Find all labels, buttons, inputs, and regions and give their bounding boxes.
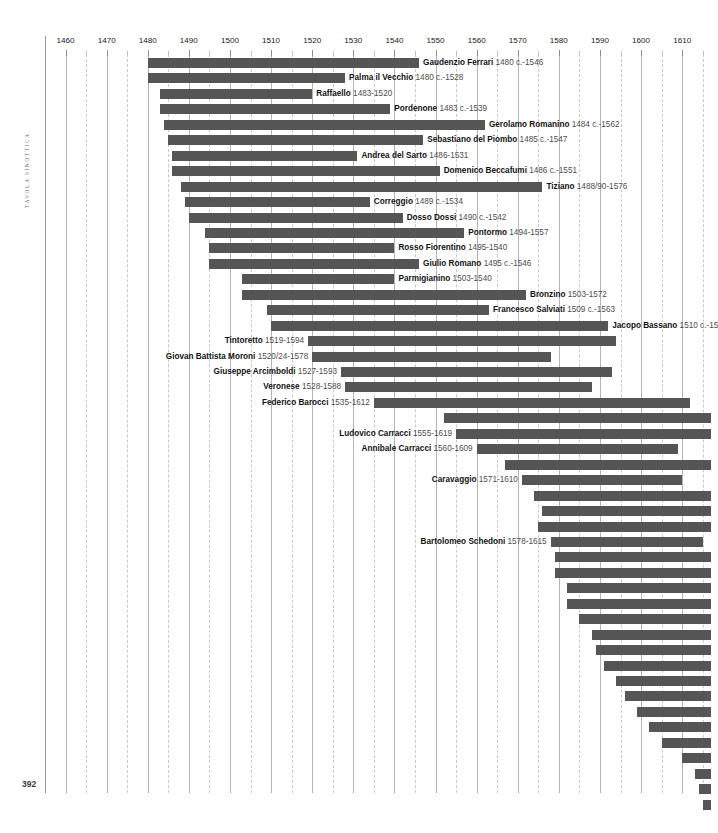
artist-row[interactable] xyxy=(45,457,711,474)
artist-row[interactable]: Gaudenzio Ferrari 1480 c.-1546 xyxy=(45,55,711,72)
lifespan-bar[interactable] xyxy=(181,182,543,192)
lifespan-bar[interactable] xyxy=(242,290,526,300)
lifespan-bar[interactable] xyxy=(456,429,711,439)
lifespan-bar[interactable] xyxy=(682,753,711,763)
lifespan-bar[interactable] xyxy=(555,552,711,562)
artist-row[interactable] xyxy=(45,596,711,613)
lifespan-bar[interactable] xyxy=(695,769,711,779)
artist-row[interactable] xyxy=(45,673,711,690)
lifespan-bar[interactable] xyxy=(164,120,485,130)
artist-row[interactable]: Jacopo Bassano 1510 c.-15 xyxy=(45,318,711,335)
lifespan-bar[interactable] xyxy=(522,475,682,485)
artist-row[interactable] xyxy=(45,750,711,767)
lifespan-bar[interactable] xyxy=(374,398,691,408)
artist-row[interactable]: Raffaello 1483-1520 xyxy=(45,86,711,103)
artist-row[interactable] xyxy=(45,781,711,798)
lifespan-bar[interactable] xyxy=(555,568,711,578)
artist-row[interactable]: Ludovico Carracci 1555-1619 xyxy=(45,426,711,443)
artist-row[interactable]: Palma il Vecchio 1480 c.-1528 xyxy=(45,70,711,87)
artist-row[interactable]: Veronese 1528-1588 xyxy=(45,379,711,396)
artist-row[interactable] xyxy=(45,642,711,659)
artist-row[interactable]: Andrea del Sarto 1486-1531 xyxy=(45,148,711,165)
artist-row[interactable]: Parmigianino 1503-1540 xyxy=(45,271,711,288)
artist-row[interactable]: Tintoretto 1519-1594 xyxy=(45,333,711,350)
artist-row[interactable]: Domenico Beccafumi 1486 c.-1551 xyxy=(45,163,711,180)
artist-row[interactable]: Caravaggio 1571-1610 xyxy=(45,472,711,489)
lifespan-bar[interactable] xyxy=(160,104,390,114)
lifespan-bar[interactable] xyxy=(205,228,464,238)
artist-row[interactable]: Rosso Fiorentino 1495-1540 xyxy=(45,240,711,257)
artist-row[interactable] xyxy=(45,488,711,505)
artist-row[interactable] xyxy=(45,735,711,752)
artist-row[interactable] xyxy=(45,549,711,566)
lifespan-bar[interactable] xyxy=(168,135,423,145)
lifespan-bar[interactable] xyxy=(160,89,312,99)
lifespan-bar[interactable] xyxy=(616,676,711,686)
artist-row[interactable] xyxy=(45,580,711,597)
lifespan-bar[interactable] xyxy=(341,367,612,377)
lifespan-bar[interactable] xyxy=(185,197,370,207)
artist-row[interactable]: Correggio 1489 c.-1534 xyxy=(45,194,711,211)
artist-dates: 1555-1619 xyxy=(413,429,452,438)
lifespan-bar[interactable] xyxy=(308,336,616,346)
lifespan-bar[interactable] xyxy=(505,460,711,470)
artist-row[interactable]: Bronzino 1503-1572 xyxy=(45,287,711,304)
lifespan-bar[interactable] xyxy=(209,259,419,269)
lifespan-bar[interactable] xyxy=(242,274,394,284)
artist-row[interactable]: Giulio Romano 1495 c.-1546 xyxy=(45,256,711,273)
artist-row[interactable] xyxy=(45,519,711,536)
artist-row[interactable]: Dosso Dossi 1490 c.-1542 xyxy=(45,210,711,227)
lifespan-bar[interactable] xyxy=(267,305,489,315)
lifespan-bar[interactable] xyxy=(345,382,592,392)
lifespan-bar[interactable] xyxy=(567,583,711,593)
lifespan-bar[interactable] xyxy=(662,738,711,748)
artist-row[interactable] xyxy=(45,688,711,705)
artist-row[interactable] xyxy=(45,611,711,628)
lifespan-bar[interactable] xyxy=(444,413,711,423)
artist-row[interactable]: Gerolamo Romanino 1484 c.-1562 xyxy=(45,117,711,134)
lifespan-bar[interactable] xyxy=(189,213,403,223)
artist-row[interactable] xyxy=(45,797,711,814)
artist-row[interactable]: Tiziano 1488/90-1576 xyxy=(45,179,711,196)
lifespan-bar[interactable] xyxy=(699,784,711,794)
artist-row[interactable] xyxy=(45,410,711,427)
lifespan-bar[interactable] xyxy=(538,522,711,532)
lifespan-bar[interactable] xyxy=(596,645,711,655)
lifespan-bar[interactable] xyxy=(534,491,711,501)
artist-row[interactable]: Giuseppe Arcimboldi 1527-1593 xyxy=(45,364,711,381)
artist-row[interactable]: Annibale Carracci 1560-1609 xyxy=(45,441,711,458)
lifespan-bar[interactable] xyxy=(625,691,711,701)
artist-row[interactable]: Giovan Battista Moroni 1520/24-1578 xyxy=(45,349,711,366)
lifespan-bar[interactable] xyxy=(312,352,550,362)
lifespan-bar[interactable] xyxy=(172,166,439,176)
artist-row[interactable] xyxy=(45,766,711,783)
artist-row[interactable] xyxy=(45,627,711,644)
year-label: 1560 xyxy=(468,36,486,45)
lifespan-bar[interactable] xyxy=(637,707,711,717)
artist-row[interactable]: Pordenone 1483 c.-1539 xyxy=(45,101,711,118)
artist-row[interactable]: Bartolomeo Schedoni 1578-1615 xyxy=(45,534,711,551)
lifespan-bar[interactable] xyxy=(649,722,711,732)
artist-row[interactable]: Pontormo 1494-1557 xyxy=(45,225,711,242)
lifespan-bar[interactable] xyxy=(148,73,345,83)
lifespan-bar[interactable] xyxy=(271,321,608,331)
artist-row[interactable]: Francesco Salviati 1509 c.-1563 xyxy=(45,302,711,319)
artist-row[interactable]: Sebastiano del Piombo 1485 c.-1547 xyxy=(45,132,711,149)
lifespan-bar[interactable] xyxy=(209,243,394,253)
lifespan-bar[interactable] xyxy=(579,614,711,624)
lifespan-bar[interactable] xyxy=(542,506,711,516)
lifespan-bar[interactable] xyxy=(172,151,357,161)
lifespan-bar[interactable] xyxy=(551,537,703,547)
artist-row[interactable] xyxy=(45,503,711,520)
lifespan-bar[interactable] xyxy=(477,444,678,454)
lifespan-bar[interactable] xyxy=(703,800,711,810)
lifespan-bar[interactable] xyxy=(604,661,711,671)
lifespan-bar[interactable] xyxy=(567,599,711,609)
lifespan-bar[interactable] xyxy=(592,630,711,640)
artist-row[interactable] xyxy=(45,658,711,675)
artist-row[interactable]: Federico Barocci 1535-1612 xyxy=(45,395,711,412)
artist-row[interactable] xyxy=(45,719,711,736)
artist-row[interactable] xyxy=(45,565,711,582)
artist-row[interactable] xyxy=(45,704,711,721)
lifespan-bar[interactable] xyxy=(148,58,419,68)
